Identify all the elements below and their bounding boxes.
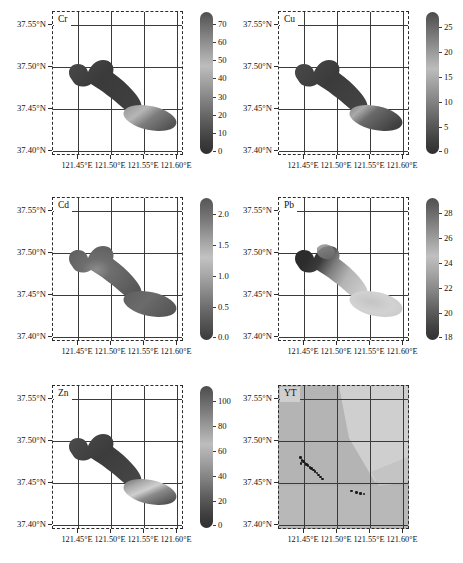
colorbar-tick [213, 276, 216, 277]
y-tick [274, 66, 278, 67]
y-tick [48, 210, 52, 211]
panel-yt: YT 37.55°N 37.50°N 37.45°N 37.40°N 121.4… [232, 372, 463, 563]
y-tick-label: 37.45°N [0, 478, 46, 487]
panel-cd: Cd 37.55°N 37.50°N 37.45°N 37.40°N 121.4… [0, 186, 232, 374]
colorbar-ticks-pb: 28 26 24 22 20 18 [439, 198, 463, 340]
x-tick [336, 341, 337, 345]
y-tick-label: 37.45°N [232, 478, 272, 487]
x-tick-label: 121.60°E [155, 348, 197, 356]
y-tick [274, 398, 278, 399]
x-tick [369, 341, 370, 345]
figure-canvas: Cr 37.55°N 37.50°N 37.45°N 37.40°N 121.4… [0, 0, 463, 563]
colorbar-tick-label: 25 [444, 23, 453, 32]
colorbar-tick [213, 245, 216, 246]
sample-points-layer [279, 386, 408, 528]
colorbar-tick [439, 102, 442, 103]
colorbar-tick [439, 288, 442, 289]
colorbar-tick-label: 26 [444, 234, 453, 243]
x-tick [402, 529, 403, 533]
map-frame-zn: Zn [52, 385, 183, 529]
colorbar-pb [426, 198, 439, 340]
x-tick-label: 121.60°E [381, 536, 423, 544]
colorbar-tick [213, 97, 216, 98]
y-tick [274, 210, 278, 211]
plume-overlay-cd [53, 198, 182, 340]
colorbar-tick-label: 5 [444, 123, 448, 132]
colorbar-tick [213, 60, 216, 61]
y-tick-label: 37.40°N [0, 146, 46, 155]
y-tick-label: 37.50°N [232, 62, 272, 71]
y-tick [48, 336, 52, 337]
y-tick [274, 440, 278, 441]
x-tick [402, 155, 403, 159]
x-tick [402, 341, 403, 345]
sampling-site-dot [359, 492, 362, 495]
y-tick [274, 524, 278, 525]
y-tick-label: 37.55°N [0, 206, 46, 215]
colorbar-tick-label: 30 [218, 93, 227, 102]
x-tick [303, 155, 304, 159]
colorbar-tick-label: 18 [444, 333, 453, 342]
x-tick-label: 121.60°E [155, 162, 197, 170]
sampling-site-dot [363, 493, 366, 496]
colorbar-tick-label: 0.5 [218, 303, 229, 312]
colorbar-tick-label: 24 [444, 259, 453, 268]
x-tick [143, 155, 144, 159]
plume-overlay-zn [53, 386, 182, 528]
colorbar-tick [439, 27, 442, 28]
colorbar-zn [200, 386, 213, 528]
colorbar-tick-label: 100 [218, 397, 231, 406]
panel-label-pb: Pb [280, 199, 297, 214]
y-tick-label: 37.45°N [0, 290, 46, 299]
colorbar-tick-label: 2.0 [218, 210, 229, 219]
map-frame-cr: Cr [52, 11, 183, 155]
x-tick [336, 155, 337, 159]
y-tick-label: 37.40°N [0, 332, 46, 341]
colorbar-tick [439, 238, 442, 239]
colorbar-tick-label: 70 [218, 20, 227, 29]
colorbar-tick [439, 52, 442, 53]
colorbar-tick-label: 40 [218, 74, 227, 83]
y-tick [48, 108, 52, 109]
colorbar-tick [213, 307, 216, 308]
y-tick-label: 37.50°N [0, 436, 46, 445]
colorbar-tick [213, 401, 216, 402]
y-tick [48, 66, 52, 67]
y-tick-label: 37.40°N [232, 146, 272, 155]
colorbar-tick-label: 0 [218, 521, 222, 530]
y-tick [48, 294, 52, 295]
colorbar-tick-label: 20 [218, 497, 227, 506]
colorbar-tick-label: 15 [444, 73, 453, 82]
y-tick [48, 398, 52, 399]
colorbar-tick-label: 60 [218, 447, 227, 456]
x-tick [369, 155, 370, 159]
colorbar-tick [213, 133, 216, 134]
colorbar-tick-label: 1.0 [218, 272, 229, 281]
colorbar-tick [439, 127, 442, 128]
y-tick-label: 37.55°N [232, 206, 272, 215]
x-tick [77, 341, 78, 345]
colorbar-tick [213, 476, 216, 477]
x-tick-label: 121.60°E [155, 536, 197, 544]
colorbar-tick [439, 263, 442, 264]
y-tick [48, 24, 52, 25]
colorbar-tick-label: 28 [444, 209, 453, 218]
y-tick-label: 37.50°N [232, 436, 272, 445]
colorbar-tick-label: 40 [218, 472, 227, 481]
y-tick-label: 37.55°N [0, 20, 46, 29]
colorbar-tick [439, 313, 442, 314]
plume-overlay-cr [53, 12, 182, 154]
panel-pb: Pb 37.55°N 37.50°N 37.45°N 37.40°N 121.4… [232, 186, 463, 374]
colorbar-tick [213, 115, 216, 116]
x-tick-label: 121.60°E [381, 162, 423, 170]
colorbar-tick-label: 22 [444, 284, 453, 293]
plume-overlay-pb [279, 198, 408, 340]
y-tick [48, 252, 52, 253]
colorbar-tick [213, 42, 216, 43]
panel-label-cu: Cu [280, 13, 298, 28]
y-tick [274, 252, 278, 253]
y-tick-label: 37.55°N [232, 20, 272, 29]
colorbar-tick [213, 151, 216, 152]
y-tick [274, 24, 278, 25]
colorbar-cu [426, 12, 439, 154]
